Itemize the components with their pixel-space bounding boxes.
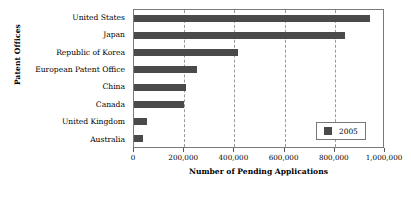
x-axis-tick-label: 400,000 — [219, 153, 249, 162]
chart-legend: 2005 — [316, 122, 366, 140]
bar — [134, 49, 238, 56]
bar — [134, 101, 184, 108]
x-axis-tick-label: 200,000 — [168, 153, 198, 162]
x-axis-tick-label: 1,000,000 — [366, 153, 403, 162]
bar — [134, 135, 143, 142]
bar — [134, 84, 186, 91]
x-axis-tick-label: 800,000 — [319, 153, 349, 162]
bar — [134, 32, 345, 39]
category-label: Japan — [26, 26, 129, 43]
legend-label-2005: 2005 — [339, 127, 358, 136]
bar — [134, 118, 147, 125]
y-axis-category-labels: United StatesJapanRepublic of KoreaEurop… — [26, 9, 129, 148]
x-axis-tick — [384, 148, 385, 152]
bar-row — [134, 61, 383, 78]
category-label: United States — [26, 9, 129, 26]
bar — [134, 66, 197, 73]
x-axis-tick-label: 0 — [131, 153, 136, 162]
x-axis-tick-label: 600,000 — [269, 153, 299, 162]
bar-row — [134, 27, 383, 44]
bar — [134, 15, 370, 22]
x-axis-tick-labels: 0200,000400,000600,000800,0001,000,000 — [0, 153, 411, 165]
x-axis-tick — [183, 148, 184, 152]
category-label: Australia — [26, 131, 129, 148]
bar-row — [134, 79, 383, 96]
x-axis-tick — [334, 148, 335, 152]
y-axis-title: Patent Offices — [13, 10, 22, 100]
category-label: Canada — [26, 96, 129, 113]
category-label: China — [26, 79, 129, 96]
x-axis-tick — [233, 148, 234, 152]
category-label: Republic of Korea — [26, 44, 129, 61]
bar-row — [134, 44, 383, 61]
x-axis-title: Number of Pending Applications — [133, 167, 384, 176]
x-axis-tick — [133, 148, 134, 152]
bar-chart: Patent Offices United StatesJapanRepubli… — [0, 0, 411, 197]
x-axis-tick — [284, 148, 285, 152]
bar-row — [134, 10, 383, 27]
bar-row — [134, 96, 383, 113]
category-label: United Kingdom — [26, 113, 129, 130]
legend-swatch-2005 — [324, 127, 332, 135]
category-label: European Patent Office — [26, 61, 129, 78]
